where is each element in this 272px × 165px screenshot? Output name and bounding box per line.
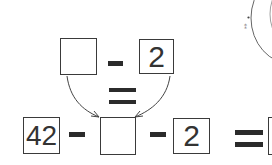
bottom-box-42[interactable]: 42 [23,117,60,154]
svg-text:⁑: ⁑ [244,23,247,30]
arrow-right-icon [135,76,170,117]
bottom-minus-1-icon [69,132,85,137]
top-right-box[interactable]: 2 [139,39,174,74]
bottom-minus-2-icon [150,132,166,137]
middle-equals-top-bar [109,88,136,92]
bottom-box-2[interactable]: 2 [173,118,210,154]
circle-decoration-icon: ⁑ [244,0,272,64]
top-minus-icon [108,61,123,66]
bottom-equals-bottom-bar [235,142,263,147]
arrow-left-icon [67,76,99,117]
bottom-result-box[interactable] [268,117,272,155]
top-left-empty-box[interactable] [60,38,97,75]
bottom-empty-box[interactable] [100,117,136,155]
bottom-equals-top-bar [235,130,263,135]
middle-equals-bottom-bar [109,100,136,104]
